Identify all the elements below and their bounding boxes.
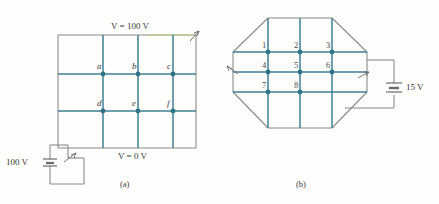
panel-b-battery-label: 15 V xyxy=(406,83,424,92)
node-b-dot xyxy=(136,72,141,77)
node-label-e: e xyxy=(132,99,136,108)
panel-a-battery-leads xyxy=(50,145,84,184)
panel-b-edge-top-right-diag xyxy=(332,18,367,52)
panel-b-edge-bottom-left-diag xyxy=(233,92,268,128)
figure-root: V = 100 V V = 0 V 100 V a b c d e f (a) … xyxy=(0,0,439,204)
panel-a-circuit-diagram xyxy=(0,0,439,204)
panel-a-bottom-voltage-label: V = 0 V xyxy=(118,152,147,161)
node-6-dot xyxy=(330,70,335,75)
panel-a-grid-outline xyxy=(58,35,196,148)
node-label-8: 8 xyxy=(294,81,298,90)
node-1-dot xyxy=(266,50,271,55)
panel-a-top-right-terminal-tick xyxy=(190,31,199,41)
node-e-dot xyxy=(136,109,141,114)
panel-a-vertical-lines xyxy=(103,35,173,148)
panel-a-battery-terminal-tick xyxy=(64,153,76,162)
node-label-7: 7 xyxy=(262,81,266,90)
panel-b-edge-bottom-right-diag xyxy=(332,92,367,128)
node-5-dot xyxy=(298,70,303,75)
panel-a-caption: (a) xyxy=(120,180,129,189)
node-4-dot xyxy=(266,70,271,75)
panel-a-battery-label: 100 V xyxy=(6,158,28,167)
node-a-dot xyxy=(101,72,106,77)
node-label-4: 4 xyxy=(262,61,266,70)
node-label-b: b xyxy=(132,62,137,71)
node-label-1: 1 xyxy=(262,41,266,50)
panel-a-top-voltage-label: V = 100 V xyxy=(111,22,149,31)
node-label-f: f xyxy=(167,99,170,108)
node-label-5: 5 xyxy=(294,61,298,70)
panel-a-battery-symbol xyxy=(43,159,57,166)
panel-a-horizontal-lines xyxy=(58,74,196,111)
node-7-dot xyxy=(266,90,271,95)
node-d-dot xyxy=(101,109,106,114)
node-8-dot xyxy=(298,90,303,95)
node-f-dot xyxy=(171,109,176,114)
node-label-c: c xyxy=(167,62,171,71)
panel-b-battery-leads xyxy=(345,60,394,108)
node-label-6: 6 xyxy=(326,61,330,70)
node-label-a: a xyxy=(97,62,102,71)
node-label-2: 2 xyxy=(294,41,298,50)
panel-b-caption: (b) xyxy=(296,180,306,189)
node-label-3: 3 xyxy=(326,41,330,50)
node-label-d: d xyxy=(97,99,102,108)
panel-b-battery-symbol xyxy=(386,83,402,92)
node-3-dot xyxy=(330,50,335,55)
node-2-dot xyxy=(298,50,303,55)
node-c-dot xyxy=(171,72,176,77)
